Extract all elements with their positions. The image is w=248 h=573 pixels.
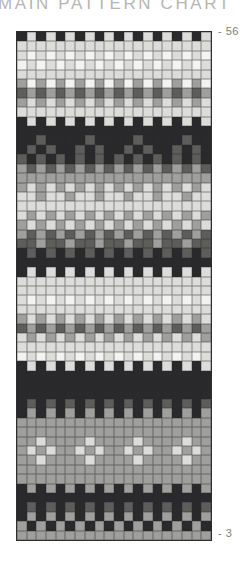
grid-cell (153, 427, 163, 436)
grid-cell (95, 239, 105, 248)
grid-cell (114, 446, 124, 455)
grid-cell (153, 117, 163, 126)
grid-cell (85, 173, 95, 182)
grid-cell (27, 380, 37, 389)
grid-cell (36, 70, 46, 79)
grid-cell (17, 154, 27, 163)
grid-cell (36, 239, 46, 248)
grid-cell (133, 192, 143, 201)
grid-cell (95, 211, 105, 220)
grid-cell (162, 277, 172, 286)
grid-cell (182, 493, 192, 502)
grid-cell (65, 239, 75, 248)
grid-cell (17, 51, 27, 60)
grid-cell (114, 484, 124, 493)
grid-cell (172, 220, 182, 229)
grid-cell (133, 305, 143, 314)
grid-cell (46, 446, 56, 455)
grid-cell (56, 352, 66, 361)
grid-cell (75, 305, 85, 314)
grid-cell (201, 399, 211, 408)
grid-cell (182, 173, 192, 182)
grid-cell (192, 286, 202, 295)
grid-cell (133, 173, 143, 182)
grid-cell (95, 389, 105, 398)
grid-cell (95, 126, 105, 135)
grid-cell (133, 474, 143, 483)
grid-cell (104, 107, 114, 116)
grid-cell (46, 211, 56, 220)
grid-cell (172, 70, 182, 79)
grid-cell (36, 465, 46, 474)
grid-cell (56, 324, 66, 333)
grid-cell (133, 164, 143, 173)
grid-cell (46, 380, 56, 389)
grid-cell (153, 484, 163, 493)
grid-cell (65, 314, 75, 323)
grid-cell (153, 201, 163, 210)
grid-cell (75, 41, 85, 50)
grid-cell (114, 41, 124, 50)
grid-cell (27, 211, 37, 220)
grid-cell (133, 531, 143, 540)
grid-cell (75, 220, 85, 229)
grid-cell (162, 248, 172, 257)
grid-cell (56, 41, 66, 50)
grid-cell (36, 418, 46, 427)
grid-cell (124, 484, 134, 493)
grid-cell (153, 531, 163, 540)
grid-cell (27, 248, 37, 257)
grid-cell (46, 361, 56, 370)
grid-cell (143, 333, 153, 342)
grid-cell (172, 455, 182, 464)
grid-cell (75, 521, 85, 530)
grid-cell (143, 51, 153, 60)
grid-cell (104, 521, 114, 530)
grid-cell (75, 126, 85, 135)
grid-cell (56, 248, 66, 257)
grid-cell (153, 98, 163, 107)
grid-cell (75, 173, 85, 182)
grid-cell (182, 145, 192, 154)
grid-cell (27, 79, 37, 88)
grid-cell (192, 446, 202, 455)
grid-cell (172, 183, 182, 192)
grid-cell (182, 455, 192, 464)
grid-cell (124, 455, 134, 464)
grid-cell (162, 418, 172, 427)
grid-cell (104, 98, 114, 107)
grid-cell (143, 484, 153, 493)
grid-cell (65, 126, 75, 135)
grid-cell (75, 446, 85, 455)
grid-cell (104, 230, 114, 239)
grid-cell (104, 239, 114, 248)
grid-cell (36, 32, 46, 41)
grid-cell (201, 314, 211, 323)
grid-cell (56, 521, 66, 530)
grid-cell (104, 427, 114, 436)
row-number-top-label: - 56 (218, 25, 239, 37)
grid-cell (201, 512, 211, 521)
grid-cell (85, 333, 95, 342)
grid-cell (153, 154, 163, 163)
grid-cell (192, 32, 202, 41)
grid-cell (36, 352, 46, 361)
grid-cell (182, 295, 192, 304)
grid-cell (27, 32, 37, 41)
grid-cell (27, 305, 37, 314)
grid-cell (192, 107, 202, 116)
grid-cell (201, 98, 211, 107)
grid-cell (192, 465, 202, 474)
grid-cell (162, 399, 172, 408)
grid-cell (172, 248, 182, 257)
grid-cell (182, 164, 192, 173)
grid-cell (201, 135, 211, 144)
grid-cell (46, 70, 56, 79)
grid-cell (46, 484, 56, 493)
grid-cell (46, 183, 56, 192)
grid-cell (56, 474, 66, 483)
grid-cell (143, 192, 153, 201)
grid-cell (192, 380, 202, 389)
grid-cell (192, 455, 202, 464)
grid-cell (162, 324, 172, 333)
